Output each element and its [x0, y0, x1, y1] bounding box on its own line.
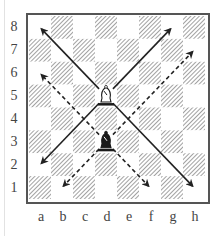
square-f4: [139, 108, 161, 131]
square-e5: [117, 85, 139, 108]
square-h5: [183, 85, 205, 108]
square-f6: [139, 62, 161, 85]
square-c5: [73, 85, 95, 108]
file-label-g: g: [162, 210, 184, 224]
square-a3: [29, 130, 51, 153]
square-b8: [51, 16, 73, 39]
rank-label-1: 1: [8, 181, 20, 195]
square-e7: [117, 39, 139, 62]
rank-label-8: 8: [8, 20, 20, 34]
file-label-h: h: [184, 210, 206, 224]
square-e3: [117, 130, 139, 153]
square-h3: [183, 130, 205, 153]
square-d7: [95, 39, 117, 62]
file-label-b: b: [52, 210, 74, 224]
rank-label-3: 3: [8, 135, 20, 149]
square-e1: [117, 176, 139, 199]
square-e8: [117, 16, 139, 39]
square-h2: [183, 153, 205, 176]
square-h8: [183, 16, 205, 39]
square-b2: [51, 153, 73, 176]
square-h4: [183, 108, 205, 131]
rank-label-4: 4: [8, 112, 20, 126]
file-label-f: f: [140, 210, 162, 224]
square-d4: [95, 108, 117, 131]
square-b6: [51, 62, 73, 85]
square-f2: [139, 153, 161, 176]
square-c1: [73, 176, 95, 199]
square-d2: [95, 153, 117, 176]
file-label-a: a: [30, 210, 52, 224]
rank-label-2: 2: [8, 158, 20, 172]
square-g7: [161, 39, 183, 62]
square-g1: [161, 176, 183, 199]
file-label-d: d: [96, 210, 118, 224]
square-b4: [51, 108, 73, 131]
square-g3: [161, 130, 183, 153]
rank-label-6: 6: [8, 66, 20, 80]
square-d6: [95, 62, 117, 85]
rank-label-7: 7: [8, 43, 20, 57]
square-f8: [139, 16, 161, 39]
page-margin-line: [4, 0, 5, 236]
square-c7: [73, 39, 95, 62]
square-a7: [29, 39, 51, 62]
square-h6: [183, 62, 205, 85]
chess-board: [29, 16, 205, 199]
square-d1: [95, 176, 117, 199]
square-a5: [29, 85, 51, 108]
square-g4: [161, 108, 183, 131]
square-a1: [29, 176, 51, 199]
rank-label-5: 5: [8, 89, 20, 103]
file-label-c: c: [74, 210, 96, 224]
square-a4: [29, 108, 51, 131]
square-g5: [161, 85, 183, 108]
square-d8: [95, 16, 117, 39]
square-c3: [73, 130, 95, 153]
square-c8: [73, 16, 95, 39]
file-label-e: e: [118, 210, 140, 224]
